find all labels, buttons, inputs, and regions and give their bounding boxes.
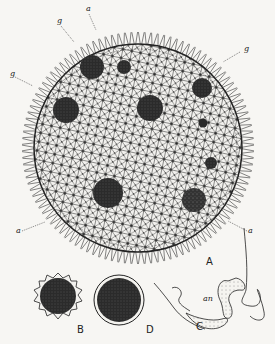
annotation-g-top-left: g <box>57 17 62 25</box>
daughter-colony <box>182 188 206 212</box>
annotation-g-right: g <box>244 45 249 53</box>
daughter-colony <box>192 78 212 98</box>
panel-label-c: C <box>196 322 203 332</box>
panel-label-b: B <box>77 325 84 335</box>
annotation-a-top: a <box>86 5 91 13</box>
daughter-colony <box>80 55 104 79</box>
volvox-illustration <box>0 0 275 344</box>
annotation-a-right: a <box>248 227 253 235</box>
daughter-colony <box>137 95 163 121</box>
daughter-colony <box>205 157 217 169</box>
panel-a-colony <box>15 14 254 264</box>
panel-label-d: D <box>146 325 154 335</box>
panel-label-a: A <box>206 257 213 267</box>
daughter-colony <box>53 97 79 123</box>
daughter-colony <box>199 119 208 128</box>
annotation-an: an <box>203 295 213 303</box>
daughter-colony <box>117 60 131 74</box>
panel-b-zygote <box>34 273 82 319</box>
panel-d-spore <box>94 275 144 325</box>
annotation-g-left: g <box>10 70 15 78</box>
annotation-a-left: a <box>16 227 21 235</box>
daughter-colony <box>93 178 123 208</box>
